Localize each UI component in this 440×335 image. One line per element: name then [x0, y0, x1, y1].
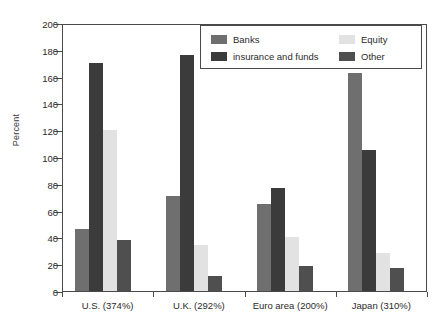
- y-axis-tick-label: 100: [18, 153, 58, 164]
- bar: [390, 268, 404, 291]
- bar-chart: Percent Banks Equity insurance and funds: [0, 0, 440, 335]
- bar: [362, 150, 376, 291]
- bar: [285, 237, 299, 291]
- bar: [117, 240, 131, 291]
- x-axis-tick-label: Euro area (200%): [253, 300, 328, 311]
- x-axis-tick: [62, 292, 63, 297]
- bar: [348, 73, 362, 291]
- x-axis-tick-label: U.S. (374%): [82, 300, 134, 311]
- x-axis-tick: [153, 292, 154, 297]
- bar: [271, 188, 285, 291]
- bar: [299, 266, 313, 291]
- legend-swatch-icon: [211, 35, 227, 44]
- chart-legend: Banks Equity insurance and funds Other: [200, 25, 422, 69]
- y-axis-tick-label: 60: [18, 206, 58, 217]
- y-axis-tick-label: 0: [18, 287, 58, 298]
- legend-row: Banks Equity: [211, 31, 421, 48]
- y-axis-tick-label: 20: [18, 260, 58, 271]
- legend-label: Banks: [233, 35, 259, 45]
- legend-entry-equity: Equity: [339, 35, 387, 45]
- bar: [103, 130, 117, 291]
- x-axis-tick-label: Japan (310%): [352, 300, 411, 311]
- x-axis-tick-label: U.K. (292%): [173, 300, 225, 311]
- legend-entry-other: Other: [339, 52, 385, 62]
- bar: [166, 196, 180, 291]
- y-axis-tick-label: 120: [18, 126, 58, 137]
- legend-swatch-icon: [339, 52, 355, 61]
- y-axis-tick-label: 80: [18, 179, 58, 190]
- legend-swatch-icon: [339, 35, 355, 44]
- bar: [75, 229, 89, 291]
- bar: [89, 63, 103, 291]
- legend-entry-insurance-and-funds: insurance and funds: [211, 52, 339, 62]
- legend-entry-banks: Banks: [211, 35, 339, 45]
- bar: [257, 204, 271, 291]
- legend-swatch-icon: [211, 52, 227, 61]
- x-axis-tick: [427, 292, 428, 297]
- legend-row: insurance and funds Other: [211, 48, 421, 65]
- legend-label: Equity: [361, 35, 387, 45]
- x-axis-tick: [245, 292, 246, 297]
- bar: [180, 55, 194, 291]
- bar: [208, 276, 222, 291]
- legend-label: Other: [361, 52, 385, 62]
- bar: [194, 245, 208, 291]
- bar: [376, 253, 390, 291]
- y-axis-tick-label: 160: [18, 72, 58, 83]
- y-axis-tick-label: 40: [18, 233, 58, 244]
- y-axis-tick-label: 200: [18, 19, 58, 30]
- legend-label: insurance and funds: [233, 52, 319, 62]
- y-axis-tick-label: 140: [18, 99, 58, 110]
- x-axis-tick: [336, 292, 337, 297]
- y-axis-tick-label: 180: [18, 45, 58, 56]
